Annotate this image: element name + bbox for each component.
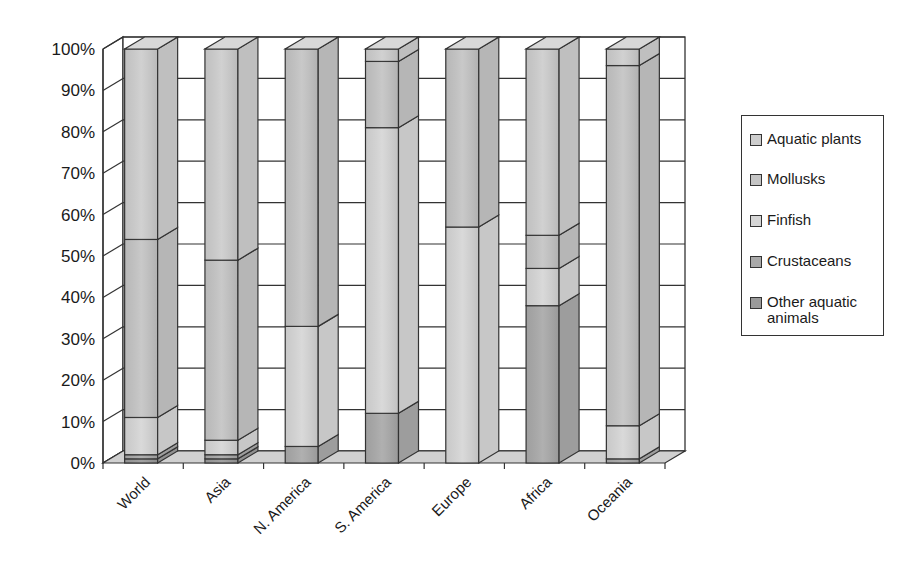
bar-europe: [446, 37, 499, 463]
y-tick-label: 60%: [61, 206, 95, 225]
x-tick-label: Africa: [516, 473, 556, 513]
y-tick-label: 90%: [61, 81, 95, 100]
x-tick-label: S. America: [331, 473, 395, 537]
bar-n-america: [285, 37, 338, 463]
legend-swatch: [750, 297, 762, 309]
legend-item-other-aquatic-animals: Other aquatic animals: [750, 294, 857, 326]
legend-label: Other aquatic animals: [767, 294, 857, 326]
legend-label: Crustaceans: [767, 253, 851, 269]
legend-swatch: [750, 174, 762, 186]
legend-label: Finfish: [767, 212, 811, 228]
bar-s-america: [366, 37, 419, 463]
x-tick-label: Asia: [201, 473, 234, 506]
legend-item-finfish: Finfish: [750, 212, 811, 228]
x-tick-label: Europe: [428, 473, 474, 519]
y-tick-label: 30%: [61, 330, 95, 349]
bar-oceania: [606, 37, 659, 463]
y-tick-label: 50%: [61, 247, 95, 266]
y-tick-label: 40%: [61, 288, 95, 307]
y-tick-label: 20%: [61, 371, 95, 390]
x-tick-label: World: [114, 473, 154, 513]
x-axis-labels: WorldAsiaN. AmericaS. AmericaEuropeAfric…: [114, 473, 636, 537]
bars: [125, 37, 660, 463]
x-tick-label: Oceania: [583, 473, 635, 525]
legend-item-crustaceans: Crustaceans: [750, 253, 851, 269]
legend-swatch: [750, 134, 762, 146]
legend-label: Mollusks: [767, 171, 825, 187]
bar-africa: [526, 37, 579, 463]
y-axis-labels: 0%10%20%30%40%50%60%70%80%90%100%: [52, 40, 95, 473]
y-tick-label: 70%: [61, 164, 95, 183]
y-tick-label: 80%: [61, 123, 95, 142]
legend-swatch: [750, 256, 762, 268]
legend-item-mollusks: Mollusks: [750, 171, 825, 187]
y-tick-label: 0%: [70, 454, 95, 473]
y-tick-label: 10%: [61, 413, 95, 432]
legend-swatch: [750, 215, 762, 227]
x-tick-label: N. America: [250, 473, 314, 537]
bar-asia: [205, 37, 258, 463]
bar-world: [125, 37, 178, 463]
chart-legend: Aquatic plants Mollusks Finfish Crustace…: [741, 115, 884, 336]
y-tick-label: 100%: [52, 40, 95, 59]
legend-item-aquatic-plants: Aquatic plants: [750, 131, 861, 147]
legend-label: Aquatic plants: [767, 131, 861, 147]
